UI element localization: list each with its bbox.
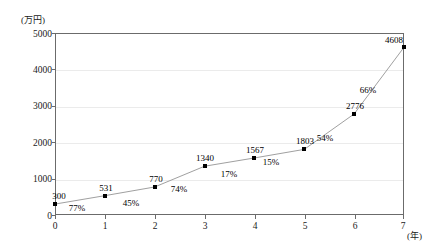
x-tick-label-1: 1 xyxy=(93,222,117,232)
x-axis-title: (年) xyxy=(407,232,422,241)
x-tick-label-0: 0 xyxy=(43,222,67,232)
x-tick-label-3: 3 xyxy=(193,222,217,232)
y-tick-label-0: 0 xyxy=(18,212,52,222)
x-tick-label-4: 4 xyxy=(243,222,267,232)
y-tick-label-2000: 2000 xyxy=(18,139,52,149)
x-tickmark-6 xyxy=(355,215,356,219)
gridline-2000 xyxy=(56,143,403,144)
x-tick-label-6: 6 xyxy=(343,222,367,232)
x-tickmark-5 xyxy=(305,215,306,219)
x-tickmark-4 xyxy=(255,215,256,219)
gridline-3000 xyxy=(56,107,403,108)
gridline-1000 xyxy=(56,180,403,181)
x-tick-label-5: 5 xyxy=(293,222,317,232)
x-tickmark-2 xyxy=(155,215,156,219)
y-tick-label-4000: 4000 xyxy=(18,66,52,76)
y-tick-label-5000: 5000 xyxy=(18,30,52,40)
x-tickmark-0 xyxy=(55,215,56,219)
chart-container: (万円) 0 1000 2000 3000 4000 5000 0 1 2 3 xyxy=(0,0,432,249)
y-tick-label-1000: 1000 xyxy=(18,175,52,185)
x-tickmark-1 xyxy=(105,215,106,219)
x-tick-label-2: 2 xyxy=(143,222,167,232)
y-tick-label-3000: 3000 xyxy=(18,102,52,112)
y-tickmark-0 xyxy=(52,215,55,216)
x-tickmark-3 xyxy=(205,215,206,219)
plot-area xyxy=(55,33,404,215)
y-axis-title: (万円) xyxy=(21,16,45,25)
x-tickmark-7 xyxy=(403,215,404,219)
gridline-4000 xyxy=(56,70,403,71)
